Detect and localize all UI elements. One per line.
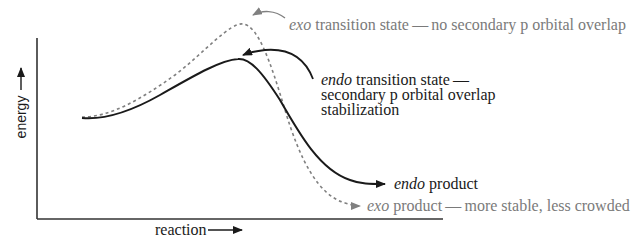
endo-product-italic: endo <box>394 175 425 192</box>
exo-product-text: product — more stable, less crowded <box>389 197 630 214</box>
exo-pathway-curve <box>82 24 360 206</box>
exo-ts-text: transition state — no secondary p orbita… <box>311 16 626 33</box>
endo-ts-label-line3: stabilization <box>321 101 399 119</box>
exo-product-italic: exo <box>367 197 389 214</box>
endo-product-label: endo product <box>394 175 478 193</box>
exo-product-label: exo product — more stable, less crowded <box>367 197 630 215</box>
exo-ts-italic: exo <box>289 16 311 33</box>
exo-ts-pointer-arrow <box>253 12 285 18</box>
x-axis-label: reaction <box>155 221 207 239</box>
endo-product-text: product <box>425 175 478 192</box>
exo-ts-label: exo transition state — no secondary p or… <box>289 16 626 34</box>
y-axis-label: energy <box>12 92 30 142</box>
